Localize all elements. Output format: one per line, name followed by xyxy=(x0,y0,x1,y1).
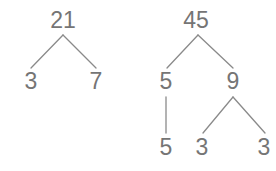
factor-tree-diagram: 21 3 7 45 5 9 5 3 3 xyxy=(0,0,276,171)
tree-edge xyxy=(167,35,198,68)
node-leaf-7: 7 xyxy=(90,70,103,93)
tree-edge xyxy=(31,35,63,68)
node-branch-5: 5 xyxy=(160,70,173,93)
node-root-45: 45 xyxy=(183,9,209,32)
node-leaf-3-right: 3 xyxy=(258,136,271,159)
tree-edge xyxy=(203,97,233,133)
node-leaf-3: 3 xyxy=(25,70,38,93)
tree-edge xyxy=(63,35,96,68)
tree-edge xyxy=(198,35,233,68)
node-leaf-5: 5 xyxy=(160,136,173,159)
tree-edge xyxy=(233,97,265,133)
node-branch-9: 9 xyxy=(227,70,240,93)
node-leaf-3-left: 3 xyxy=(196,136,209,159)
node-root-21: 21 xyxy=(50,9,76,32)
